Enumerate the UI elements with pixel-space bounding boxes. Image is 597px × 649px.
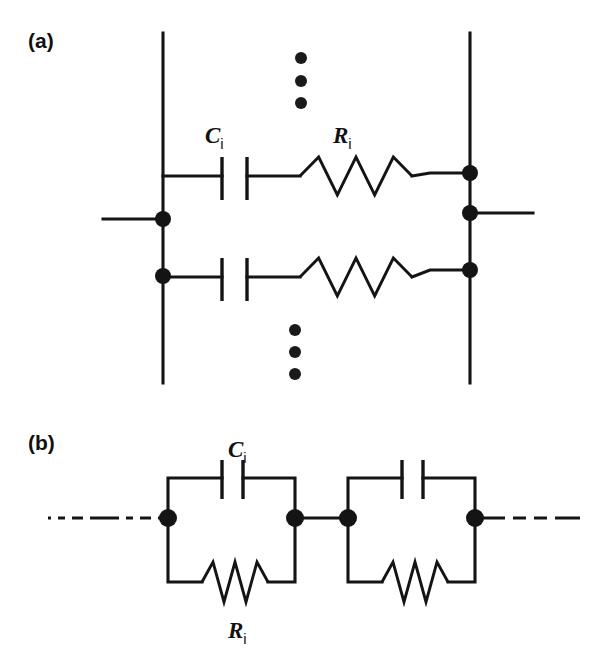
branch-upper-output-wire — [412, 173, 470, 176]
right-node-mid — [462, 205, 478, 221]
figure-root: (a) — [0, 0, 597, 649]
ellipsis-dot — [289, 346, 301, 358]
panel-a-rails — [163, 33, 470, 383]
rc-cell-1 — [168, 460, 295, 602]
ellipsis-dot — [289, 324, 301, 336]
cell-top-loop-wire — [348, 478, 475, 518]
panel-a-junction-dots — [155, 165, 478, 284]
branch-upper — [163, 157, 470, 200]
circuit-diagram: (a) — [0, 0, 597, 649]
resistor-zigzag — [202, 562, 268, 602]
right-node-top — [462, 165, 478, 181]
node-b-2 — [286, 509, 304, 527]
resistor-zigzag — [382, 562, 448, 602]
node-b-4 — [466, 509, 484, 527]
right-node-lower — [462, 262, 478, 278]
panel-a: (a) — [28, 29, 533, 383]
ellipsis-dot — [295, 75, 307, 87]
resistor-label: Ri — [227, 618, 247, 647]
panel-b: (b) — [28, 431, 580, 647]
branch-lower-output-wire — [412, 270, 470, 277]
left-node-upper — [155, 211, 171, 227]
lower-ellipsis — [289, 324, 301, 380]
rc-cell-2 — [348, 460, 475, 602]
node-b-1 — [159, 509, 177, 527]
ellipsis-dot — [295, 52, 307, 64]
capacitor-label: Ci — [205, 123, 224, 152]
upper-ellipsis — [295, 52, 307, 109]
panel-b-label: (b) — [28, 431, 55, 454]
node-b-3 — [339, 509, 357, 527]
resistor-zigzag — [300, 157, 412, 195]
left-node-lower — [155, 268, 171, 284]
branch-lower — [163, 258, 470, 301]
panel-a-label: (a) — [28, 29, 54, 52]
resistor-zigzag — [300, 258, 412, 296]
resistor-label: Ri — [332, 123, 352, 152]
ellipsis-dot — [295, 97, 307, 109]
capacitor-label: Ci — [228, 437, 247, 466]
cell-top-loop-wire — [168, 478, 295, 518]
ellipsis-dot — [289, 368, 301, 380]
